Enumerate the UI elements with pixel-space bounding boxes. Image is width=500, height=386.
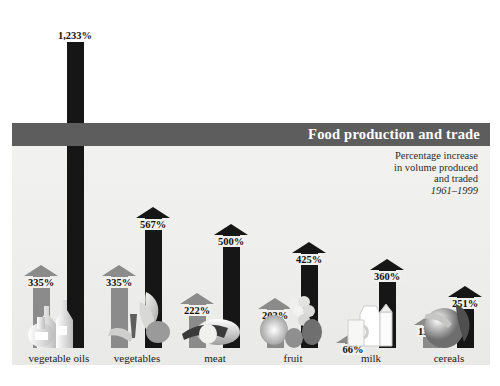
produced-value-vegetable-oils: 335% [27, 277, 55, 288]
traded-value-fruit: 425% [295, 254, 323, 265]
traded-value-cereals: 251% [451, 298, 479, 309]
produced-arrow-fruit: 203% [258, 298, 292, 348]
arrow-shaft [67, 42, 84, 348]
subtitle-line-3: and traded [258, 173, 478, 185]
produced-arrow-milk: 66% [336, 332, 370, 348]
category-label-vegetable-oils: vegetable oils [29, 352, 90, 364]
arrow-head-icon [24, 265, 58, 276]
traded-value-vegetable-oils: 1,233% [57, 30, 93, 41]
produced-value-vegetables: 335% [105, 277, 133, 288]
traded-arrow-meat: 500% [214, 224, 248, 348]
traded-value-meat: 500% [217, 236, 245, 247]
traded-arrow-vegetable-oils: 1,233% [58, 42, 92, 348]
arrow-head-icon [336, 332, 370, 343]
bar-group-vegetable-oils: 335%1,233%vegetable oils [22, 0, 96, 348]
category-label-vegetables: vegetables [114, 352, 160, 364]
category-label-fruit: fruit [284, 352, 303, 364]
subtitle-years: 1961–1999 [258, 185, 478, 197]
produced-arrow-cereals: 137% [414, 314, 448, 348]
bar-group-meat: 222%500%meat [178, 0, 252, 348]
produced-arrow-vegetables: 335% [102, 265, 136, 348]
food-production-infographic: 335%1,233%vegetable oils335%567%vegetabl… [0, 0, 500, 386]
arrow-shaft [145, 218, 162, 348]
traded-arrow-cereals: 251% [448, 286, 482, 348]
bar-group-vegetables: 335%567%vegetables [100, 0, 174, 348]
produced-arrow-meat: 222% [180, 293, 214, 348]
produced-value-meat: 222% [183, 305, 211, 316]
arrow-head-icon [258, 298, 292, 309]
arrow-head-icon [102, 265, 136, 276]
chart-subtitle: Percentage increase in volume produced a… [258, 150, 478, 196]
produced-value-fruit: 203% [261, 310, 289, 321]
arrow-head-icon [448, 286, 482, 297]
produced-value-cereals: 137% [417, 326, 445, 337]
arrow-head-icon [214, 224, 248, 235]
category-label-cereals: cereals [434, 352, 465, 364]
traded-value-vegetables: 567% [139, 219, 167, 230]
subtitle-line-1: Percentage increase [258, 150, 478, 162]
category-label-milk: milk [361, 352, 381, 364]
arrow-head-icon [292, 242, 326, 253]
page-title: Food production and trade [308, 127, 480, 142]
arrow-head-icon [180, 293, 214, 304]
traded-arrow-milk: 360% [370, 259, 404, 348]
traded-value-milk: 360% [373, 271, 401, 282]
arrow-head-icon [370, 259, 404, 270]
category-label-meat: meat [204, 352, 225, 364]
traded-arrow-fruit: 425% [292, 242, 326, 348]
arrow-head-icon [414, 314, 448, 325]
title-band: Food production and trade [12, 123, 490, 146]
subtitle-line-2: in volume produced [258, 162, 478, 174]
arrow-shaft [223, 235, 240, 348]
arrow-head-icon [136, 207, 170, 218]
arrow-shaft [301, 253, 318, 348]
traded-arrow-vegetables: 567% [136, 207, 170, 348]
produced-arrow-vegetable-oils: 335% [24, 265, 58, 348]
